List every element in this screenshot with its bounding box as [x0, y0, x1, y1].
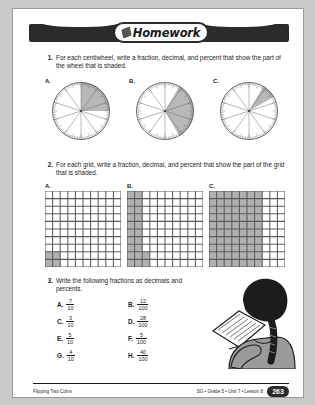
fraction-denominator: 10: [66, 338, 74, 345]
footer: Flipping Two Coins SG • Grade 5 • Unit 7…: [33, 386, 289, 398]
fraction-denominator: 100: [136, 338, 147, 345]
fraction-denominator: 100: [137, 355, 148, 362]
homework-banner: Homework: [29, 21, 289, 45]
footer-divider: [33, 383, 289, 384]
grid-label-b: B.: [127, 183, 133, 189]
fraction-item-f: F.5100: [128, 332, 199, 349]
fraction-item-a: A.710: [57, 298, 128, 315]
fraction-denominator: 10: [67, 355, 75, 362]
fraction-item-d: D.28100: [128, 315, 199, 332]
fraction-value: 510: [66, 332, 74, 345]
fraction-value: 710: [66, 298, 74, 311]
fraction-item-c: C.310: [57, 315, 128, 332]
grid-b: [127, 191, 203, 267]
fraction-value: 310: [66, 315, 74, 328]
centiwheel-b: [131, 77, 199, 145]
grid-label-c: C.: [209, 183, 215, 189]
fraction-label: G.: [57, 349, 64, 359]
fraction-item-b: B.12100: [128, 298, 199, 315]
fraction-row: A.710B.12100: [57, 298, 199, 315]
grid-label-a: A.: [45, 183, 51, 189]
fraction-label: A.: [57, 298, 63, 308]
question-1: 1. For each centiwheel, write a fraction…: [45, 54, 289, 71]
question-3-number: 3.: [45, 277, 56, 294]
question-2-text: For each grid, write a fraction, decimal…: [56, 161, 289, 178]
grid-a: [45, 191, 121, 267]
fraction-value: 12100: [137, 298, 148, 311]
question-3-text: Write the following fractions as decimal…: [56, 277, 197, 294]
centiwheel-c: [215, 77, 283, 145]
question-1-text: For each centiwheel, write a fraction, d…: [56, 54, 289, 71]
grid-c: [209, 191, 285, 267]
fraction-denominator: 10: [66, 321, 74, 328]
centiwheel-a: [47, 77, 115, 145]
fraction-label: F.: [128, 332, 133, 342]
question-1-number: 1.: [45, 54, 56, 71]
fraction-label: H.: [128, 349, 134, 359]
footer-lesson-title: Flipping Two Coins: [33, 389, 72, 394]
fraction-row: C.310D.28100: [57, 315, 199, 332]
question-2: 2. For each grid, write a fraction, deci…: [45, 161, 289, 178]
fraction-value: 410: [67, 349, 75, 362]
question-2-number: 2.: [45, 161, 56, 178]
fraction-item-g: G.410: [57, 349, 128, 366]
fraction-label: B.: [128, 298, 134, 308]
page-number: 263: [267, 386, 289, 397]
banner-pill: Homework: [113, 22, 209, 43]
fraction-denominator: 100: [137, 321, 148, 328]
fraction-item-e: E.510: [57, 332, 128, 349]
fraction-list: A.710B.12100C.310D.28100E.510F.5100G.410…: [57, 298, 199, 366]
footer-meta: SG • Grade 5 • Unit 7 • Lesson 8: [197, 389, 263, 394]
worksheet-page: Homework 1. For each centiwheel, write a…: [12, 8, 304, 398]
fraction-row: E.510F.5100: [57, 332, 199, 349]
pencil-icon: [121, 27, 131, 39]
student-writing-illustration: [209, 275, 299, 369]
banner-title: Homework: [133, 26, 201, 40]
fraction-value: 28100: [137, 315, 148, 328]
fraction-label: C.: [57, 315, 63, 325]
fraction-item-h: H.40100: [128, 349, 199, 366]
fraction-label: D.: [128, 315, 134, 325]
fraction-denominator: 10: [66, 304, 74, 311]
fraction-value: 5100: [136, 332, 147, 345]
fraction-denominator: 100: [137, 304, 148, 311]
fraction-label: E.: [57, 332, 63, 342]
fraction-row: G.410H.40100: [57, 349, 199, 366]
fraction-value: 40100: [137, 349, 148, 362]
question-3: 3. Write the following fractions as deci…: [45, 277, 197, 294]
